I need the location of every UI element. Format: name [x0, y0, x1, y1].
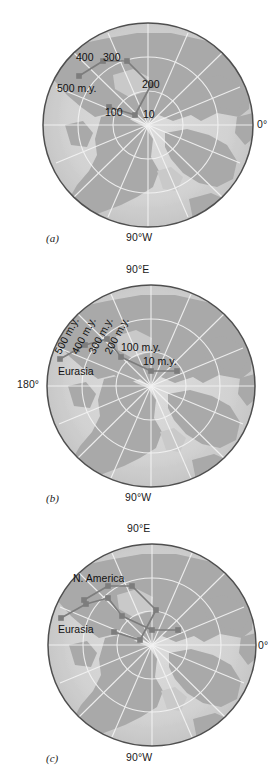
- bottom-meridian-label-b: 90°W: [125, 491, 151, 503]
- label-200: 200: [142, 78, 160, 90]
- bottom-meridian-label-a: 90°W: [126, 231, 152, 243]
- right-meridian-label-a: 0°: [257, 118, 267, 130]
- top-meridian-label-c: 90°E: [127, 522, 150, 534]
- panel-a: 400 300 200 500 m.y. 100 10 0° 90°W (a): [0, 0, 280, 255]
- label-10: 10: [143, 108, 155, 120]
- globe-map-b: [45, 283, 257, 489]
- label-300: 300: [103, 51, 121, 63]
- graticule: [43, 23, 253, 227]
- label-eurasia-c: Eurasia: [58, 623, 94, 635]
- globe-map-a: [41, 21, 255, 229]
- label-n-america-c: N. America: [73, 572, 124, 584]
- label-500-my: 500 m.y.: [57, 82, 97, 94]
- label-100-my-b: 100 m.y.: [121, 341, 161, 353]
- label-eurasia-b: Eurasia: [58, 365, 94, 377]
- left-meridian-label-b: 180°: [17, 378, 39, 390]
- bottom-meridian-label-c: 90°W: [126, 751, 152, 763]
- panel-c: 90°E: [0, 510, 280, 776]
- label-400: 400: [76, 51, 94, 63]
- top-meridian-label-b: 90°E: [126, 263, 149, 275]
- panel-letter-b: (b): [46, 492, 59, 504]
- right-meridian-label-c: 0°: [258, 639, 268, 651]
- label-100: 100: [105, 106, 123, 118]
- panel-letter-c: (c): [46, 752, 58, 764]
- globe-svg-b: [45, 283, 257, 489]
- panel-b: 90°E: [0, 255, 280, 510]
- globe-svg-a: [41, 21, 255, 229]
- panel-letter-a: (a): [46, 232, 59, 244]
- label-10-my-b: 10 m.y.: [143, 355, 177, 367]
